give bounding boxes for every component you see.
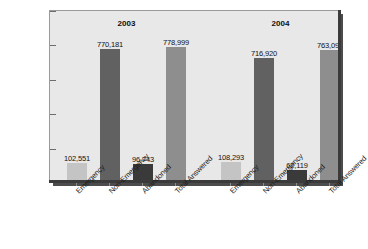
group-title-2003: 2003 xyxy=(97,19,157,28)
bar-value-label: 770,181 xyxy=(87,40,133,49)
bar-non-emergency-2003 xyxy=(100,49,120,181)
plot-right-border xyxy=(338,10,341,183)
bar-total-answered-2004 xyxy=(320,50,339,181)
y-axis-tick-mark xyxy=(50,45,56,46)
y-axis-tick-mark xyxy=(50,149,56,150)
bar-value-label: 778,999 xyxy=(153,38,199,47)
group-title-2004: 2004 xyxy=(251,19,311,28)
y-axis-tick-mark xyxy=(50,11,56,12)
bar-total-answered-2003 xyxy=(166,47,186,181)
bar-non-emergency-2004 xyxy=(254,58,274,181)
bar-value-label: 763,094 xyxy=(307,41,339,50)
bar-value-label: 102,551 xyxy=(54,154,100,163)
y-axis-tick-mark xyxy=(50,114,56,115)
bar-value-label: 108,293 xyxy=(208,153,254,162)
bar-value-label: 716,920 xyxy=(241,49,287,58)
y-axis-tick-mark xyxy=(50,80,56,81)
